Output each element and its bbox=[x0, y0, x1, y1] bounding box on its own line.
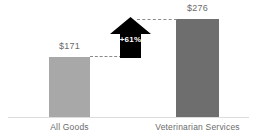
value-label-all-goods: $171 bbox=[49, 41, 90, 51]
category-label-veterinarian-services: Veterinarian Services bbox=[144, 122, 251, 132]
value-label-veterinarian-services: $276 bbox=[172, 3, 223, 13]
category-axis-line bbox=[8, 117, 249, 118]
bar-all-goods bbox=[49, 57, 90, 117]
bar-chart: +61% $171 $276 All Goods Veterinarian Se… bbox=[0, 0, 257, 136]
plot-area: +61% $171 $276 All Goods Veterinarian Se… bbox=[0, 0, 257, 136]
bar-veterinarian-services bbox=[176, 19, 219, 117]
category-label-all-goods: All Goods bbox=[34, 122, 105, 132]
growth-arrow-icon bbox=[110, 17, 151, 58]
